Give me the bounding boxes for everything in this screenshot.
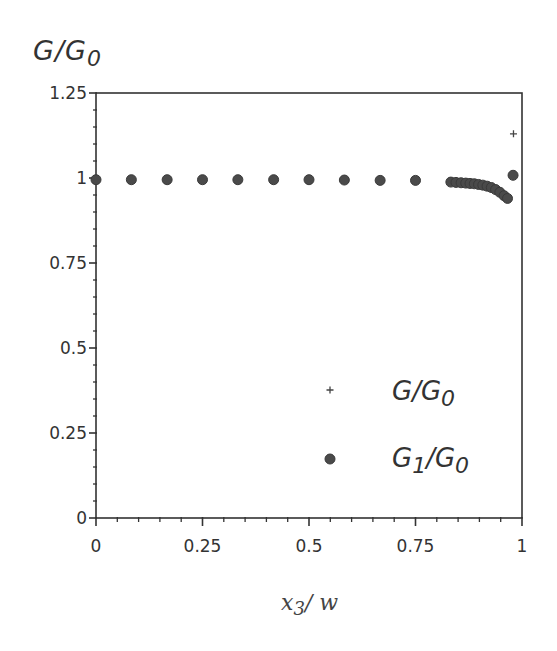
legend-label-main: G/G <box>392 376 441 406</box>
data-point-plus <box>510 130 517 137</box>
data-point-diamond <box>269 175 279 185</box>
legend-label-main: G <box>392 443 412 473</box>
x-tick-label: 0.25 <box>184 536 222 556</box>
y-tick-label: 0.5 <box>60 338 87 358</box>
legend-label-subscript: 0 <box>441 386 455 411</box>
data-point-diamond <box>233 175 243 185</box>
data-point-diamond <box>198 175 208 185</box>
data-point-diamond <box>375 175 385 185</box>
y-tick-label: 0.25 <box>49 423 87 443</box>
data-point-diamond <box>91 175 101 185</box>
legend-plus-icon <box>327 387 334 394</box>
legend-label-g-over-g0: G/G0 <box>392 376 455 411</box>
data-point-diamond <box>411 175 421 185</box>
x-tick-label: 0 <box>91 536 102 556</box>
y-tick-label: 0.75 <box>49 253 87 273</box>
legend-label-subscript: 1 <box>412 453 426 478</box>
y-tick-label: 0 <box>76 508 87 528</box>
x-tick-label: 0.5 <box>295 536 322 556</box>
x-axis-title-subscript: 3 <box>293 598 304 619</box>
data-point-diamond <box>503 193 513 203</box>
data-point-diamond <box>126 175 136 185</box>
data-point-diamond <box>304 175 314 185</box>
x-axis-title-main: x <box>281 590 293 615</box>
x-axis-title: x3/ w <box>281 590 338 619</box>
x-tick-label: 0.75 <box>397 536 435 556</box>
legend-label-subscript-2: 0 <box>455 453 469 478</box>
data-point-diamond <box>339 175 349 185</box>
data-point-diamond <box>508 170 518 180</box>
y-tick-label: 1 <box>76 168 87 188</box>
plot-area: 00.250.50.7511.2500.250.50.751 <box>0 0 557 651</box>
legend-label-g1-over-g0: G1/G0 <box>392 443 469 478</box>
data-point-diamond <box>162 175 172 185</box>
x-tick-label: 1 <box>517 536 528 556</box>
y-tick-label: 1.25 <box>49 83 87 103</box>
x-axis-title-rest: / w <box>305 590 338 615</box>
legend-label-rest: /G <box>426 443 455 473</box>
legend-diamond-icon <box>325 454 335 464</box>
